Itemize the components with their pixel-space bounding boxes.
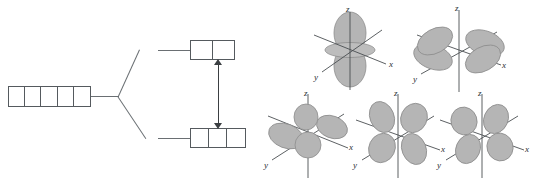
axis-label-y: y: [263, 160, 268, 170]
eg-set: [190, 40, 235, 60]
orbital-cell: [227, 129, 245, 147]
axis-label-z: z: [477, 88, 482, 98]
arrow-head-down-icon: [214, 123, 222, 129]
axis-label-z: z: [454, 3, 459, 13]
connector-stub: [91, 96, 119, 97]
axis-label-z: z: [393, 88, 398, 98]
axis-label-y: y: [436, 160, 441, 170]
connector-lead-upper: [158, 50, 191, 51]
axis-label-x: x: [501, 60, 506, 70]
orbital-cell: [74, 87, 90, 106]
five-degenerate-d-orbitals: [8, 86, 91, 107]
crystal-field-splitting-diagram: [0, 0, 258, 181]
axis-label-z: z: [303, 88, 308, 98]
connector-leg-upper: [118, 50, 140, 96]
axis-label-x: x: [388, 59, 393, 69]
axis-label-y: y: [352, 160, 357, 170]
splitting-energy-arrow: [217, 59, 219, 129]
orbital-cell: [213, 41, 234, 59]
t2g-set: [190, 128, 246, 148]
orbital-dx2y2: z x y: [401, 2, 517, 97]
arrow-shaft: [218, 63, 219, 125]
axis-label-y: y: [313, 72, 318, 82]
axis-label-x: x: [524, 144, 529, 154]
orbital-cell: [9, 87, 25, 106]
axis-label-y: y: [412, 74, 417, 84]
axis-label-z: z: [345, 4, 350, 14]
orbital-cell: [209, 129, 227, 147]
connector-leg-lower: [117, 96, 146, 139]
d-orbital-shape-gallery: z x y z x y: [258, 0, 514, 181]
orbital-cell: [25, 87, 41, 106]
orbital-cell: [41, 87, 57, 106]
connector-lead-lower: [158, 138, 191, 139]
orbital-cell: [191, 41, 213, 59]
orbital-dz2: z x y: [292, 2, 408, 97]
axes: [440, 94, 524, 178]
orbital-dyz: z x y: [424, 88, 534, 183]
orbital-cell: [58, 87, 74, 106]
orbital-cell: [191, 129, 209, 147]
